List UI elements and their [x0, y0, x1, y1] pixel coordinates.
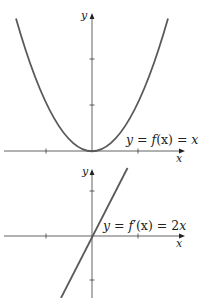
graph-derivative: y x y = f′(x) = 2x — [4, 165, 186, 298]
x-axis-label: x — [176, 152, 183, 165]
y-axis-label: y — [81, 165, 89, 178]
graph-parabola: y x y = f(x) = x2 — [4, 9, 198, 165]
y-axis-arrow-icon — [90, 13, 95, 19]
function-label: y = f′(x) = 2x — [102, 218, 186, 233]
y-axis-label: y — [80, 9, 88, 22]
x-axis-label: x — [176, 237, 183, 250]
derivative-line — [61, 168, 128, 298]
figure: y x y = f(x) = x2 y x y = f′(x) = 2x — [0, 0, 198, 298]
function-label: y = f(x) = x2 — [125, 132, 198, 147]
y-axis-arrow-icon — [90, 169, 95, 175]
